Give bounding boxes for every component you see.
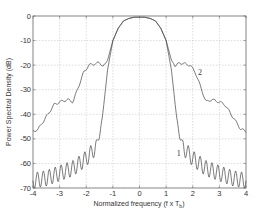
- y-tick-label: -60: [20, 159, 31, 168]
- x-tick-label: 2: [191, 189, 195, 198]
- x-tick-label: -4: [30, 189, 37, 198]
- x-tick-label: 3: [217, 189, 221, 198]
- grid-lines: [33, 16, 246, 188]
- x-tick-label: 0: [137, 189, 141, 198]
- y-tick-label: -10: [20, 36, 31, 45]
- curve-1: [33, 17, 246, 188]
- y-tick-label: 0: [27, 12, 31, 21]
- x-tick-label: 4: [244, 189, 248, 198]
- x-tick-label: -3: [56, 189, 63, 198]
- x-tick-label: -2: [83, 189, 90, 198]
- x-tick-label: -1: [110, 189, 117, 198]
- y-tick-label: -40: [20, 110, 31, 119]
- plot-curves: [33, 17, 246, 188]
- y-tick-label: -20: [20, 61, 31, 70]
- plot-frame: [33, 16, 246, 188]
- y-axis-ticks: 0-10-20-30-40-50-60-70: [20, 12, 246, 193]
- x-tick-label: 1: [164, 189, 168, 198]
- x-axis-label: Normalized frequency (f x Tb): [94, 200, 185, 209]
- curve-label-1: 1: [177, 149, 181, 158]
- psd-chart: 0-10-20-30-40-50-60-70 -4-3-2-101234 12 …: [0, 0, 261, 212]
- curve-label-2: 2: [198, 68, 202, 77]
- y-axis-label: Power Spectral Density (dB): [5, 58, 13, 146]
- x-axis-label-close: ): [182, 200, 184, 208]
- curve-labels: 12: [177, 68, 202, 158]
- y-tick-label: -50: [20, 134, 31, 143]
- y-tick-label: -30: [20, 85, 31, 94]
- x-axis-label-main: Normalized frequency (f x T: [94, 200, 181, 208]
